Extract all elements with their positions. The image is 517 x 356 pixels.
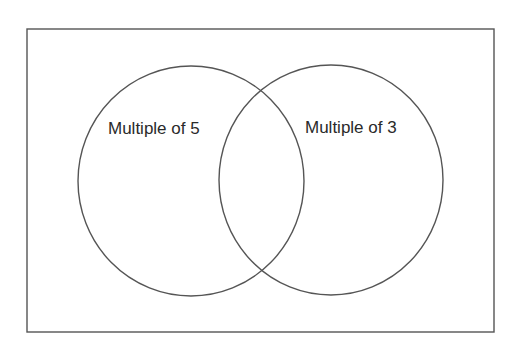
set-circle-multiple-of-5 [78,66,304,296]
set-label-multiple-of-5: Multiple of 5 [108,119,200,138]
universal-set-frame [27,29,494,332]
set-label-multiple-of-3: Multiple of 3 [305,118,397,137]
venn-diagram: Multiple of 5 Multiple of 3 [0,0,517,356]
set-circle-multiple-of-3 [219,65,443,295]
